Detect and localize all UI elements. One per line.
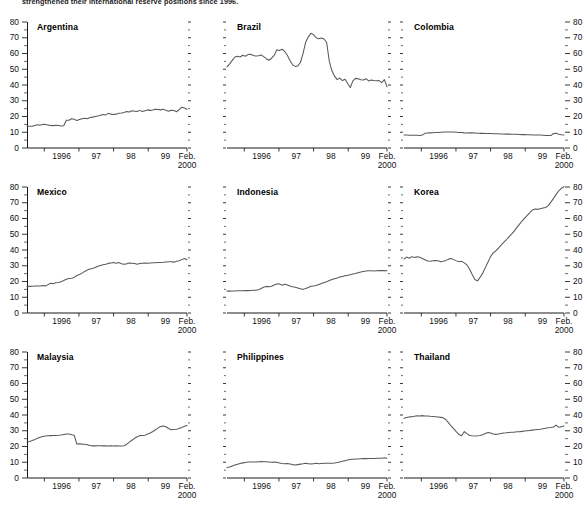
x-tick-label: Feb.2000 xyxy=(371,317,403,335)
y-tick-label: 80 xyxy=(573,183,587,191)
x-tick-label: 98 xyxy=(490,152,526,161)
y-tick-label: 10 xyxy=(0,293,19,301)
y-tick-label: 20 xyxy=(0,442,19,450)
y-tick-label: 60 xyxy=(573,379,587,387)
x-tick-label: 97 xyxy=(455,152,491,161)
y-tick-label: 20 xyxy=(0,277,19,285)
x-tick-label: 1996 xyxy=(244,317,280,326)
y-tick-label: 80 xyxy=(0,18,19,26)
panel-title-colombia: Colombia xyxy=(414,22,454,32)
x-tick-label: 97 xyxy=(278,317,314,326)
y-tick-label: 60 xyxy=(0,49,19,57)
series-line-indonesia xyxy=(227,271,387,291)
y-tick-label: 10 xyxy=(0,458,19,466)
y-tick-label: 20 xyxy=(573,442,587,450)
series-line-thailand xyxy=(404,416,564,436)
x-tick-label: 1996 xyxy=(44,317,80,326)
x-tick-label: 98 xyxy=(490,317,526,326)
x-tick-label: 97 xyxy=(78,317,114,326)
y-tick-label: 70 xyxy=(573,198,587,206)
panel-title-mexico: Mexico xyxy=(37,187,67,197)
y-tick-label: 30 xyxy=(573,426,587,434)
plot-area-malaysia xyxy=(27,352,201,480)
panel-title-korea: Korea xyxy=(414,187,439,197)
y-tick-label: 0 xyxy=(0,144,19,152)
y-tick-label: 40 xyxy=(573,81,587,89)
x-tick-label: 98 xyxy=(113,152,149,161)
axis-line xyxy=(28,352,188,478)
y-tick-label: 10 xyxy=(573,458,587,466)
panel-argentina: Argentina xyxy=(27,22,187,148)
panel-title-argentina: Argentina xyxy=(37,22,78,32)
x-tick-label: 98 xyxy=(313,482,349,491)
x-tick-label: 97 xyxy=(78,482,114,491)
series-line-malaysia xyxy=(27,425,187,446)
y-tick-label: 30 xyxy=(0,261,19,269)
x-tick-label: 98 xyxy=(313,152,349,161)
plot-area-colombia xyxy=(404,22,578,150)
plot-area-korea xyxy=(404,187,578,315)
panel-mexico: Mexico xyxy=(27,187,187,313)
x-tick-label: 1996 xyxy=(421,152,457,161)
x-tick-label: Feb.2000 xyxy=(548,482,580,500)
x-tick-label: Feb.2000 xyxy=(171,482,203,500)
plot-area-philippines xyxy=(227,352,401,480)
y-tick-label: 70 xyxy=(0,198,19,206)
y-tick-label: 70 xyxy=(573,363,587,371)
x-tick-label: Feb.2000 xyxy=(371,152,403,170)
x-tick-label: 1996 xyxy=(421,317,457,326)
y-tick-label: 80 xyxy=(573,348,587,356)
y-tick-label: 70 xyxy=(0,33,19,41)
panel-title-indonesia: Indonesia xyxy=(237,187,278,197)
panel-korea: Korea xyxy=(404,187,564,313)
panel-colombia: Colombia xyxy=(404,22,564,148)
y-tick-label: 80 xyxy=(573,18,587,26)
y-tick-label: 40 xyxy=(0,81,19,89)
plot-area-thailand xyxy=(404,352,578,480)
y-tick-label: 10 xyxy=(573,293,587,301)
x-tick-label: 97 xyxy=(278,482,314,491)
axis-line xyxy=(28,22,188,148)
axis-line xyxy=(28,187,188,313)
y-tick-label: 10 xyxy=(0,128,19,136)
x-tick-label: 97 xyxy=(455,317,491,326)
y-tick-label: 0 xyxy=(573,474,587,482)
plot-area-mexico xyxy=(27,187,201,315)
series-line-argentina xyxy=(27,107,187,126)
y-tick-label: 40 xyxy=(0,246,19,254)
y-tick-label: 10 xyxy=(573,128,587,136)
y-tick-label: 40 xyxy=(573,411,587,419)
series-line-brazil xyxy=(227,33,387,87)
x-tick-label: Feb.2000 xyxy=(171,317,203,335)
y-tick-label: 50 xyxy=(0,230,19,238)
y-tick-label: 60 xyxy=(0,379,19,387)
y-tick-label: 0 xyxy=(0,474,19,482)
x-tick-label: 98 xyxy=(113,317,149,326)
y-tick-label: 80 xyxy=(0,183,19,191)
y-tick-label: 30 xyxy=(573,261,587,269)
y-tick-label: 30 xyxy=(573,96,587,104)
x-tick-label: 1996 xyxy=(44,482,80,491)
y-tick-label: 60 xyxy=(0,214,19,222)
y-tick-label: 60 xyxy=(573,214,587,222)
y-tick-label: 0 xyxy=(0,309,19,317)
x-tick-label: 1996 xyxy=(44,152,80,161)
series-line-korea xyxy=(404,187,564,281)
y-tick-label: 40 xyxy=(0,411,19,419)
y-tick-label: 0 xyxy=(573,144,587,152)
x-tick-label: Feb.2000 xyxy=(171,152,203,170)
x-tick-label: Feb.2000 xyxy=(548,317,580,335)
panel-title-philippines: Philippines xyxy=(237,352,284,362)
y-tick-label: 40 xyxy=(573,246,587,254)
plot-area-brazil xyxy=(227,22,401,150)
x-tick-label: 97 xyxy=(78,152,114,161)
panel-title-malaysia: Malaysia xyxy=(37,352,74,362)
y-tick-label: 70 xyxy=(573,33,587,41)
x-tick-label: Feb.2000 xyxy=(548,152,580,170)
panel-title-thailand: Thailand xyxy=(414,352,450,362)
y-tick-label: 50 xyxy=(573,395,587,403)
y-tick-label: 50 xyxy=(573,65,587,73)
series-line-colombia xyxy=(404,132,564,136)
y-tick-label: 50 xyxy=(0,65,19,73)
panel-philippines: Philippines xyxy=(227,352,387,478)
